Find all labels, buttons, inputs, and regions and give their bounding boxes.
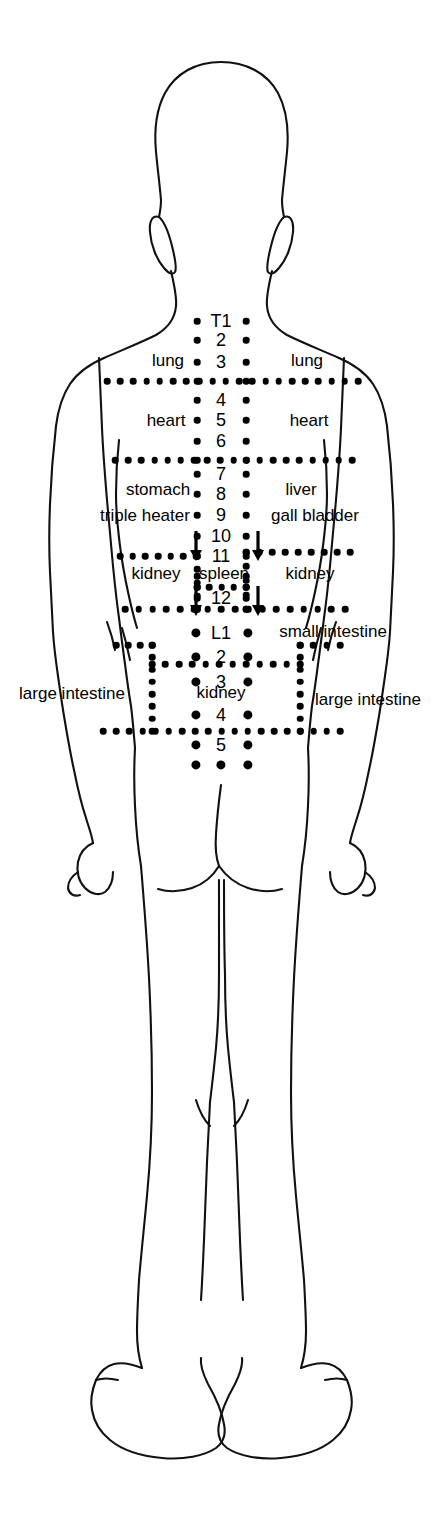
vertebra-label-T3: 3 xyxy=(216,353,226,371)
large-intestine-top-right xyxy=(337,642,344,649)
large-intestine-top-right xyxy=(323,642,330,649)
zone-divider-heart-stomach xyxy=(322,457,329,464)
zone-divider-kidney-bottom xyxy=(273,606,280,613)
zone-divider-lung-heart xyxy=(262,378,269,385)
zone-divider-heart-stomach xyxy=(296,457,303,464)
vertebra-label-T2: 2 xyxy=(216,331,226,349)
zone-divider-kidney-bottom xyxy=(232,606,239,613)
zone-divider-lung-heart xyxy=(289,378,296,385)
paravertebral-dot-left-L1 xyxy=(191,628,200,637)
zone-divider-heart-stomach xyxy=(191,457,198,464)
large-intestine-top-right xyxy=(297,642,304,649)
zone-divider-kidney-bottom xyxy=(204,606,211,613)
zone-divider-large-intestine-bottom xyxy=(126,728,133,735)
paravertebral-dot-right-T7 xyxy=(243,471,250,478)
zone-divider-large-intestine-bottom xyxy=(324,728,331,735)
zone-divider-kidney-bottom xyxy=(122,606,129,613)
large-intestine-rail-right xyxy=(297,703,304,710)
vertebra-label-L5: 5 xyxy=(216,736,226,754)
large-intestine-top-left xyxy=(113,642,120,649)
arrow-t12-right xyxy=(249,586,267,620)
zone-divider-lung-heart xyxy=(236,378,243,385)
organ-label-triple-heater: triple heater xyxy=(100,507,190,524)
zone-divider-small-intestine xyxy=(283,661,290,668)
large-intestine-rail-left xyxy=(149,715,156,722)
zone-divider-large-intestine-bottom xyxy=(113,728,120,735)
sacral-dot xyxy=(191,760,200,769)
zone-divider-large-intestine-bottom xyxy=(139,728,146,735)
zone-divider-large-intestine-bottom xyxy=(205,728,212,735)
zone-divider-heart-stomach xyxy=(283,457,290,464)
zone-divider-large-intestine-bottom xyxy=(258,728,265,735)
zone-divider-kidney-top-right xyxy=(321,549,328,556)
zone-divider-lung-heart xyxy=(117,378,124,385)
zone-divider-small-intestine xyxy=(176,661,183,668)
zone-divider-large-intestine-bottom xyxy=(218,728,225,735)
zone-divider-kidney-top-left xyxy=(117,553,124,560)
zone-divider-heart-stomach xyxy=(151,457,158,464)
paravertebral-dot-right-L5 xyxy=(243,740,252,749)
zone-divider-heart-stomach xyxy=(336,457,343,464)
paravertebral-dot-right-L4 xyxy=(243,710,252,719)
zone-divider-heart-stomach xyxy=(125,457,132,464)
organ-label-small-intestine: small intestine xyxy=(279,623,387,640)
vertebra-label-T7: 7 xyxy=(216,465,226,483)
paravertebral-dot-left-T7 xyxy=(194,471,201,478)
zone-divider-lung-heart xyxy=(341,378,348,385)
organ-label-heart-right: heart xyxy=(290,412,329,429)
zone-divider-small-intestine xyxy=(189,661,196,668)
zone-divider-kidney-top-left xyxy=(167,553,174,560)
zone-divider-kidney-top-right xyxy=(282,549,289,556)
zone-divider-kidney-bottom xyxy=(287,606,294,613)
vertebra-label-T12: 12 xyxy=(211,589,231,607)
zone-divider-large-intestine-bottom xyxy=(192,728,199,735)
zone-divider-heart-stomach xyxy=(217,457,224,464)
large-intestine-top-right xyxy=(310,642,317,649)
large-intestine-rail-left xyxy=(149,679,156,686)
paravertebral-dot-right-L1 xyxy=(243,628,252,637)
paravertebral-dot-right-T3 xyxy=(243,359,250,366)
vertebra-label-T9: 9 xyxy=(216,506,226,524)
organ-label-kidney-left-upper: kidney xyxy=(131,565,180,582)
zone-divider-large-intestine-bottom xyxy=(166,728,173,735)
organ-label-lung-right: lung xyxy=(291,352,323,369)
organ-label-kidney-lower: kidney xyxy=(196,684,245,701)
zone-divider-kidney-bottom xyxy=(342,606,349,613)
zone-divider-kidney-top-right xyxy=(269,549,276,556)
large-intestine-rail-right xyxy=(297,728,304,735)
large-intestine-rail-right xyxy=(297,679,304,686)
large-intestine-top-left xyxy=(137,642,144,649)
paravertebral-dot-right-T9 xyxy=(243,512,250,519)
organ-label-lung-left: lung xyxy=(152,352,184,369)
vertebra-label-T4: 4 xyxy=(216,391,226,409)
zone-divider-heart-stomach xyxy=(230,457,237,464)
zone-divider-large-intestine-bottom xyxy=(310,728,317,735)
zone-divider-large-intestine-bottom xyxy=(179,728,186,735)
paravertebral-dot-left-T2 xyxy=(194,337,201,344)
zone-divider-lung-heart xyxy=(315,378,322,385)
zone-divider-lung-heart xyxy=(249,378,256,385)
zone-divider-heart-stomach xyxy=(270,457,277,464)
organ-label-kidney-right-upper: kidney xyxy=(285,565,334,582)
zone-divider-lung-heart xyxy=(275,378,282,385)
zone-divider-heart-stomach xyxy=(112,457,119,464)
zone-divider-large-intestine-bottom xyxy=(100,728,107,735)
zone-divider-large-intestine-bottom xyxy=(245,728,252,735)
zone-divider-large-intestine-bottom xyxy=(337,728,344,735)
zone-divider-small-intestine xyxy=(243,661,250,668)
zone-divider-heart-stomach xyxy=(309,457,316,464)
zone-divider-heart-stomach xyxy=(243,457,250,464)
diagram-canvas: T123456789101112L12345lunglungheartheart… xyxy=(0,0,442,1524)
zone-divider-kidney-top-left xyxy=(180,553,187,560)
vertebra-label-T10: 10 xyxy=(211,527,231,545)
large-intestine-rail-left xyxy=(149,666,156,673)
vertebra-label-T5: 5 xyxy=(216,411,226,429)
large-intestine-rail-right xyxy=(297,654,304,661)
organ-label-large-intestine-right: large intestine xyxy=(315,691,421,708)
zone-divider-kidney-bottom xyxy=(163,606,170,613)
zone-divider-lung-heart xyxy=(355,378,362,385)
organ-label-heart-left: heart xyxy=(147,412,186,429)
paravertebral-dot-left-L4 xyxy=(191,710,200,719)
annotation-overlay: T123456789101112L12345lunglungheartheart… xyxy=(0,0,442,1524)
zone-divider-lung-heart xyxy=(157,378,164,385)
